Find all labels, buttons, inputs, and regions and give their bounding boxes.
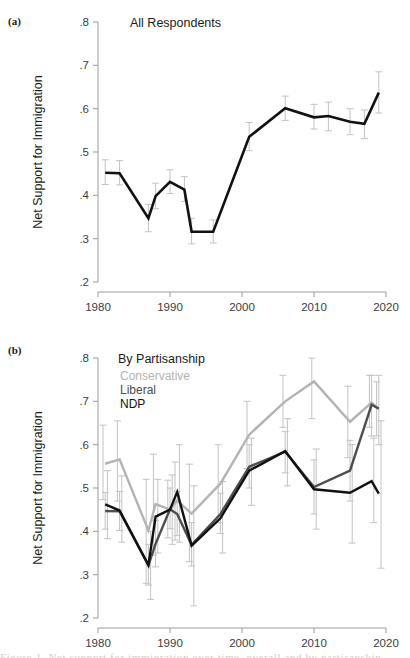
y-axis-title: Net Support for Immigration (31, 75, 45, 229)
series-line-all-respondents (105, 93, 379, 232)
y-tick-label: .3 (79, 569, 89, 581)
legend-item-conservative: Conservative (120, 369, 190, 383)
panel-all-respondents: (a).2.3.4.5.6.7.819801990200020102020Net… (0, 0, 410, 330)
y-tick-label: .7 (79, 59, 89, 71)
panel-tag: (a) (8, 15, 21, 28)
error-bar (375, 72, 382, 113)
y-axis-title: Net Support for Immigration (31, 411, 45, 565)
panel-title: By Partisanship (118, 352, 205, 366)
x-tick-label: 2020 (373, 637, 399, 649)
figure-caption-sliver: Figure 1. Net support for immigration ov… (0, 651, 410, 658)
legend-item-liberal: Liberal (120, 383, 156, 397)
error-bar (308, 358, 315, 419)
panel-title: All Respondents (130, 16, 221, 30)
legend-item-ndp: NDP (120, 397, 145, 411)
panel-by-partisanship: (b).2.3.4.5.6.7.819801990200020102020Net… (0, 330, 410, 658)
y-tick-label: .6 (79, 439, 89, 451)
x-tick-label: 2000 (229, 301, 255, 313)
x-tick-label: 1990 (157, 637, 183, 649)
x-tick-label: 2020 (373, 301, 399, 313)
y-tick-label: .3 (79, 233, 89, 245)
x-tick-label: 1980 (85, 301, 111, 313)
y-tick-label: .8 (79, 352, 89, 364)
x-tick-label: 1990 (157, 301, 183, 313)
y-tick-label: .6 (79, 103, 89, 115)
x-tick-label: 2000 (229, 637, 255, 649)
y-tick-label: .8 (79, 16, 89, 28)
y-tick-label: .4 (79, 525, 89, 537)
x-tick-label: 2010 (301, 637, 327, 649)
y-tick-label: .5 (79, 146, 89, 158)
chart-b-svg: (b).2.3.4.5.6.7.819801990200020102020Net… (0, 330, 410, 658)
y-tick-label: .7 (79, 395, 89, 407)
x-tick-label: 2010 (301, 301, 327, 313)
y-tick-label: .4 (79, 189, 89, 201)
figure-container: (a).2.3.4.5.6.7.819801990200020102020Net… (0, 0, 410, 658)
y-tick-label: .2 (79, 612, 89, 624)
chart-a-svg: (a).2.3.4.5.6.7.819801990200020102020Net… (0, 0, 410, 330)
y-tick-label: .5 (79, 482, 89, 494)
panel-tag: (b) (8, 344, 22, 357)
x-tick-label: 1980 (85, 637, 111, 649)
y-tick-label: .2 (79, 276, 89, 288)
